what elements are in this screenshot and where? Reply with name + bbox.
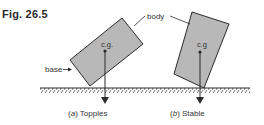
stability-diagram: c.g. c.g body base (a) Topples (b) Stabl… — [0, 0, 264, 125]
weight-arrow-a-icon — [101, 97, 109, 104]
cg-label-b: c.g — [197, 40, 207, 49]
base-arrow-icon — [68, 68, 72, 72]
weight-arrow-b-icon — [196, 97, 204, 104]
cg-label-a: c.g. — [101, 40, 113, 49]
body-label: body — [147, 12, 164, 21]
body-leader-b — [170, 16, 190, 24]
ground — [40, 88, 250, 93]
caption-a: (a) Topples — [68, 109, 107, 118]
body-leader-a — [134, 16, 145, 26]
caption-b: (b) Stable — [170, 109, 205, 118]
base-label: base — [45, 65, 63, 74]
